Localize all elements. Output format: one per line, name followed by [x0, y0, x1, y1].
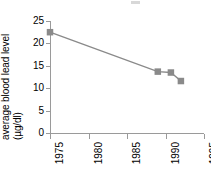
series-line: [50, 32, 181, 81]
x-tick-label: 1995: [208, 142, 211, 164]
y-axis-label-main: average blood lead level: [0, 34, 11, 140]
x-tick-mark: [50, 134, 51, 139]
y-tick-label-text: 5: [28, 106, 44, 116]
x-tick-label: 1980: [93, 142, 104, 164]
y-tick-label: 20: [26, 38, 44, 48]
y-tick-label: 10: [26, 83, 44, 93]
x-tick-label: 1990: [170, 142, 181, 164]
y-tick-label: 0: [26, 128, 44, 138]
y-tick-label-text: 15: [28, 61, 44, 71]
y-tick-label-text: 25: [28, 16, 44, 26]
x-tick-mark: [127, 134, 128, 139]
y-tick-label-text: 0: [28, 128, 44, 138]
x-tick-mark: [166, 134, 167, 139]
data-point-marker: [168, 69, 175, 76]
y-tick-label-text: 10: [28, 83, 44, 93]
y-tick-label: 15: [26, 61, 44, 71]
cropped-title-artifact: [131, 1, 140, 4]
data-series: [50, 14, 204, 133]
x-tick-label: 1985: [131, 142, 142, 164]
y-tick-label: 25: [26, 16, 44, 26]
plot-area: 2520151050 19751980198519901995: [50, 14, 204, 133]
y-tick-label: 5: [26, 106, 44, 116]
y-tick-label-text: 20: [28, 38, 44, 48]
blood-lead-level-chart: average blood lead level (µg/dl) 2520151…: [0, 0, 211, 177]
x-tick-mark: [89, 134, 90, 139]
y-axis-label-units: (µg/dl): [12, 112, 23, 140]
data-point-marker: [155, 68, 162, 75]
x-tick-label: 1975: [54, 142, 65, 164]
data-point-marker: [47, 29, 54, 36]
x-tick-mark: [204, 134, 205, 139]
data-point-marker: [178, 78, 185, 85]
